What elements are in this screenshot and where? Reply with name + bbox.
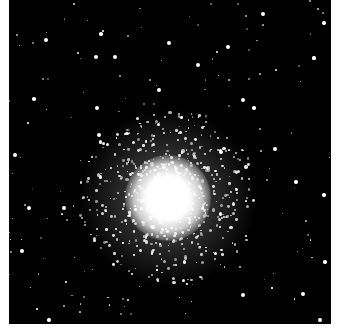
star	[113, 55, 117, 59]
star	[84, 271, 85, 272]
star	[125, 196, 127, 198]
star	[185, 141, 186, 142]
star	[225, 150, 227, 152]
star	[148, 276, 150, 278]
star	[163, 260, 166, 263]
star	[135, 239, 137, 241]
star	[116, 133, 119, 136]
star	[161, 197, 163, 199]
star	[151, 233, 153, 235]
star	[123, 149, 124, 150]
star	[105, 169, 107, 171]
star	[139, 179, 142, 182]
star	[30, 287, 31, 288]
star	[128, 211, 131, 214]
star	[83, 296, 85, 298]
star	[149, 217, 152, 220]
star	[245, 235, 247, 237]
star	[128, 243, 129, 244]
star	[214, 252, 217, 255]
star	[229, 226, 232, 229]
star	[46, 32, 47, 33]
star	[179, 126, 180, 127]
star	[168, 245, 170, 247]
star	[128, 270, 130, 272]
star	[226, 45, 230, 49]
star	[213, 178, 215, 180]
star	[130, 313, 132, 315]
star	[193, 234, 194, 235]
star	[159, 168, 161, 170]
star	[219, 150, 224, 155]
star	[92, 269, 93, 270]
star	[196, 162, 199, 165]
star	[139, 8, 140, 9]
star	[151, 181, 153, 183]
star	[142, 224, 145, 227]
star	[162, 181, 165, 184]
star	[130, 208, 132, 210]
star	[185, 188, 187, 190]
star	[153, 114, 155, 116]
star	[216, 201, 217, 202]
star	[166, 144, 168, 146]
star	[235, 152, 237, 154]
star	[191, 202, 194, 205]
star	[32, 97, 36, 101]
star	[178, 158, 180, 160]
star	[115, 228, 117, 230]
star	[129, 132, 131, 134]
star	[180, 227, 181, 228]
star	[139, 123, 140, 124]
star	[168, 250, 170, 252]
star	[188, 119, 190, 121]
star	[62, 206, 66, 210]
star	[163, 187, 165, 189]
star	[205, 121, 207, 123]
star	[322, 193, 325, 196]
star	[137, 134, 138, 135]
star	[19, 45, 20, 46]
star	[236, 192, 237, 193]
star	[9, 274, 10, 276]
star	[198, 246, 201, 249]
star	[159, 122, 160, 123]
star	[133, 230, 135, 232]
star	[144, 161, 147, 164]
star	[146, 233, 149, 236]
star	[171, 161, 174, 164]
star	[164, 116, 166, 118]
star	[218, 218, 221, 221]
star	[228, 182, 231, 185]
star	[102, 142, 105, 145]
star	[145, 201, 147, 203]
star	[165, 168, 168, 171]
star	[181, 243, 183, 245]
star	[169, 188, 171, 190]
star	[260, 150, 262, 152]
star	[152, 138, 153, 139]
star	[233, 156, 235, 158]
star	[195, 193, 197, 195]
star	[173, 235, 176, 238]
star	[185, 194, 187, 196]
star	[43, 258, 44, 259]
star	[248, 178, 250, 180]
star	[141, 221, 143, 223]
star	[189, 196, 192, 199]
star	[179, 200, 181, 202]
star	[227, 205, 230, 208]
star	[317, 8, 319, 10]
star	[307, 234, 309, 236]
star	[64, 18, 65, 19]
star	[74, 257, 75, 258]
star	[84, 221, 86, 223]
star	[20, 249, 24, 253]
star	[217, 137, 219, 139]
star	[90, 234, 91, 235]
star	[198, 114, 201, 117]
star	[44, 38, 48, 42]
star	[27, 206, 31, 210]
star	[234, 209, 235, 210]
star	[125, 178, 128, 181]
